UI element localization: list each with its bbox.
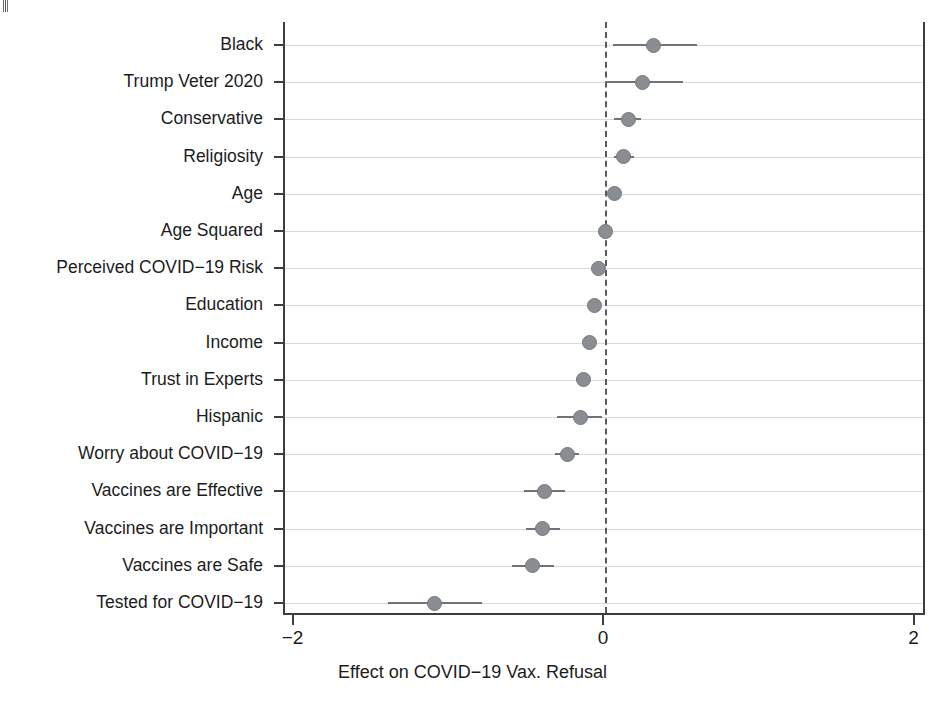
estimate-point xyxy=(576,372,591,387)
y-axis-labels: BlackTrump Veter 2020ConservativeReligio… xyxy=(0,22,263,615)
x-axis-tick xyxy=(602,615,604,625)
gridline xyxy=(285,380,923,381)
estimate-point xyxy=(560,447,575,462)
y-axis-label: Religiosity xyxy=(183,148,263,166)
plot-panel xyxy=(283,22,925,615)
estimate-point xyxy=(573,410,588,425)
gridline xyxy=(285,157,923,158)
x-axis-tick-label: 0 xyxy=(598,627,609,649)
gridline xyxy=(285,305,923,306)
estimate-point xyxy=(525,558,540,573)
estimate-point xyxy=(427,596,442,611)
estimate-point xyxy=(582,335,597,350)
estimate-point xyxy=(621,112,636,127)
y-axis-label: Age xyxy=(232,185,263,203)
y-axis-label: Black xyxy=(220,36,263,54)
y-axis-label: Vaccines are Important xyxy=(84,520,263,538)
y-axis-label: Trump Veter 2020 xyxy=(124,73,263,91)
y-axis-label: Age Squared xyxy=(161,222,263,240)
x-axis-tick xyxy=(292,615,294,625)
y-axis-label: Education xyxy=(185,297,263,315)
y-axis-label: Income xyxy=(206,334,263,352)
estimate-point xyxy=(598,224,613,239)
x-axis-tick xyxy=(913,615,915,625)
gridline xyxy=(285,45,923,46)
estimate-point xyxy=(616,149,631,164)
y-axis-label: Tested for COVID−19 xyxy=(96,594,263,612)
estimate-point xyxy=(635,75,650,90)
y-axis-label: Vaccines are Safe xyxy=(122,557,263,575)
estimate-point xyxy=(591,261,606,276)
estimate-point xyxy=(646,38,661,53)
gridline xyxy=(285,119,923,120)
estimate-point xyxy=(587,298,602,313)
x-axis-tick-label: 2 xyxy=(908,627,919,649)
x-axis-title: Effect on COVID−19 Vax. Refusal xyxy=(0,662,945,683)
scan-artifact xyxy=(3,0,8,12)
gridline xyxy=(285,454,923,455)
estimate-point xyxy=(607,186,622,201)
gridline xyxy=(285,529,923,530)
gridline xyxy=(285,603,923,604)
y-axis-label: Hispanic xyxy=(196,408,263,426)
y-axis-label: Conservative xyxy=(161,111,263,129)
y-axis-label: Vaccines are Effective xyxy=(91,483,263,501)
coefficient-plot-figure: BlackTrump Veter 2020ConservativeReligio… xyxy=(0,0,945,705)
estimate-point xyxy=(535,521,550,536)
gridline xyxy=(285,566,923,567)
zero-reference-line xyxy=(605,22,607,613)
gridline xyxy=(285,82,923,83)
gridline xyxy=(285,491,923,492)
y-axis-label: Trust in Experts xyxy=(141,371,263,389)
y-axis-label: Perceived COVID−19 Risk xyxy=(56,259,263,277)
gridline xyxy=(285,194,923,195)
gridline xyxy=(285,417,923,418)
gridline xyxy=(285,343,923,344)
x-axis-tick-label: −2 xyxy=(282,627,304,649)
y-axis-label: Worry about COVID−19 xyxy=(78,445,263,463)
estimate-point xyxy=(537,484,552,499)
